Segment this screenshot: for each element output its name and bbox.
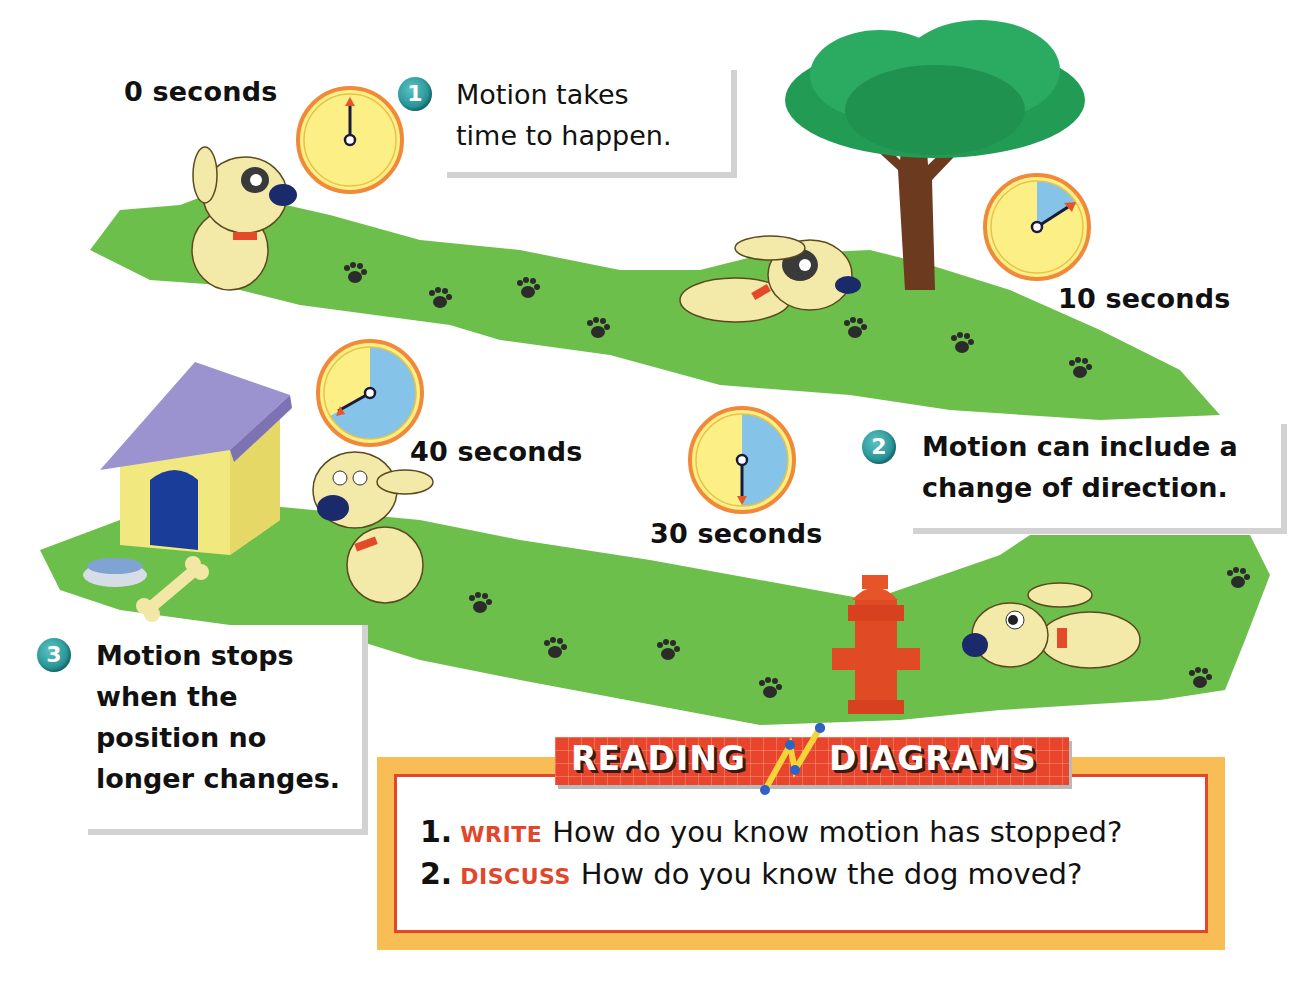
clock-10-seconds [985, 175, 1089, 279]
question-2: 2.DISCUSSHow do you know the dog moved? [420, 856, 1082, 891]
callout-3-text: Motion stops when the position no longer… [96, 635, 340, 799]
motion-diagram: 0 seconds 10 seconds 30 seconds 40 secon… [0, 0, 1300, 986]
question-1-number: 1. [420, 814, 452, 849]
time-label-30: 30 seconds [650, 518, 823, 549]
callout-1-line-2: time to happen. [456, 115, 672, 156]
callout-3-line-1: Motion stops [96, 635, 340, 676]
question-1-text: How do you know motion has stopped? [552, 815, 1122, 849]
question-1-verb: WRITE [460, 822, 542, 847]
callout-1-line-1: Motion takes [456, 74, 672, 115]
question-2-number: 2. [420, 856, 452, 891]
question-1: 1.WRITEHow do you know motion has stoppe… [420, 814, 1122, 849]
clock-30-seconds [690, 408, 794, 512]
callout-3-badge: 3 [37, 638, 71, 672]
callout-3-line-2: when the [96, 676, 340, 717]
time-label-40: 40 seconds [410, 436, 583, 467]
banner-word-reading: READING [571, 739, 746, 778]
water-bowl [83, 558, 147, 587]
callout-1-text: Motion takes time to happen. [456, 74, 672, 156]
question-2-verb: DISCUSS [460, 864, 571, 889]
clock-40-seconds [318, 341, 422, 445]
callout-3-line-4: longer changes. [96, 758, 340, 799]
time-label-0: 0 seconds [124, 76, 278, 107]
banner-word-diagrams: DIAGRAMS [829, 739, 1037, 778]
callout-1-badge: 1 [398, 77, 432, 111]
callout-3-line-3: position no [96, 717, 340, 758]
callout-2-text: Motion can include a change of direction… [922, 426, 1238, 508]
question-2-text: How do you know the dog moved? [581, 857, 1083, 891]
callout-2-badge: 2 [862, 430, 896, 464]
reading-diagrams-inner [394, 774, 1208, 933]
clock-0-seconds [298, 88, 402, 192]
callout-2-line-2: change of direction. [922, 467, 1238, 508]
dog-house [100, 362, 292, 555]
reading-diagrams-banner: READING DIAGRAMS [555, 737, 1069, 785]
reading-diagrams-box [377, 757, 1225, 950]
time-label-10: 10 seconds [1058, 283, 1231, 314]
callout-2-line-1: Motion can include a [922, 426, 1238, 467]
